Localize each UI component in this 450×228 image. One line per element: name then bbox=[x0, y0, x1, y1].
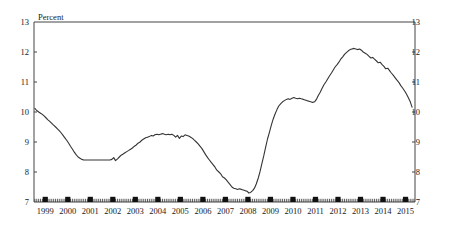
y-tick-label-right: 7 bbox=[416, 197, 420, 207]
y-tick-label-left: 13 bbox=[21, 17, 30, 27]
y-tick-label-right: 11 bbox=[412, 77, 420, 87]
x-tick-label: 2008 bbox=[239, 206, 256, 216]
y-tick-label-right: 10 bbox=[412, 107, 421, 117]
year-marker bbox=[313, 197, 318, 202]
year-marker bbox=[290, 197, 295, 202]
x-tick-label: 2015 bbox=[397, 206, 414, 216]
y-tick-label-right: 9 bbox=[416, 137, 420, 147]
y-tick-label-left: 11 bbox=[21, 77, 29, 87]
x-tick-label: 2001 bbox=[82, 206, 99, 216]
x-tick-label: 2007 bbox=[217, 206, 234, 216]
year-marker bbox=[335, 197, 340, 202]
x-tick-label: 2004 bbox=[149, 206, 167, 216]
x-tick-label: 2010 bbox=[284, 206, 301, 216]
year-marker bbox=[88, 197, 93, 202]
chart-container: 7788991010111112121313199920002001200220… bbox=[0, 0, 450, 228]
x-tick-label: 2006 bbox=[194, 206, 211, 216]
x-tick-label: 2012 bbox=[329, 206, 346, 216]
y-tick-label-right: 12 bbox=[412, 47, 421, 57]
y-tick-label-left: 7 bbox=[25, 197, 29, 207]
x-tick-label: 1999 bbox=[37, 206, 54, 216]
year-marker bbox=[358, 197, 363, 202]
x-tick-label: 2014 bbox=[375, 206, 393, 216]
y-tick-label-right: 13 bbox=[412, 17, 421, 27]
series-line-percent bbox=[35, 48, 412, 193]
line-chart: 7788991010111112121313199920002001200220… bbox=[0, 0, 450, 228]
x-tick-label: 2005 bbox=[172, 206, 189, 216]
x-tick-label: 2009 bbox=[262, 206, 279, 216]
x-tick-label: 2000 bbox=[59, 206, 76, 216]
year-marker bbox=[268, 197, 273, 202]
x-tick-label: 2003 bbox=[127, 206, 144, 216]
y-tick-label-right: 8 bbox=[416, 167, 420, 177]
y-tick-label-left: 9 bbox=[25, 137, 29, 147]
year-marker bbox=[403, 197, 408, 202]
year-marker bbox=[200, 197, 205, 202]
year-marker bbox=[223, 197, 228, 202]
year-marker bbox=[178, 197, 183, 202]
x-tick-label: 2011 bbox=[307, 206, 324, 216]
year-marker bbox=[133, 197, 138, 202]
y-tick-label-left: 10 bbox=[21, 107, 30, 117]
year-marker bbox=[65, 197, 70, 202]
x-tick-label: 2013 bbox=[352, 206, 369, 216]
year-marker bbox=[155, 197, 160, 202]
year-marker bbox=[245, 197, 250, 202]
year-marker bbox=[110, 197, 115, 202]
y-tick-label-left: 12 bbox=[21, 47, 30, 57]
unit-label: Percent bbox=[38, 12, 64, 22]
y-tick-label-left: 8 bbox=[25, 167, 29, 177]
x-tick-label: 2002 bbox=[104, 206, 121, 216]
year-marker bbox=[43, 197, 48, 202]
chart-render-group: 7788991010111112121313199920002001200220… bbox=[21, 12, 421, 216]
year-marker bbox=[380, 197, 385, 202]
